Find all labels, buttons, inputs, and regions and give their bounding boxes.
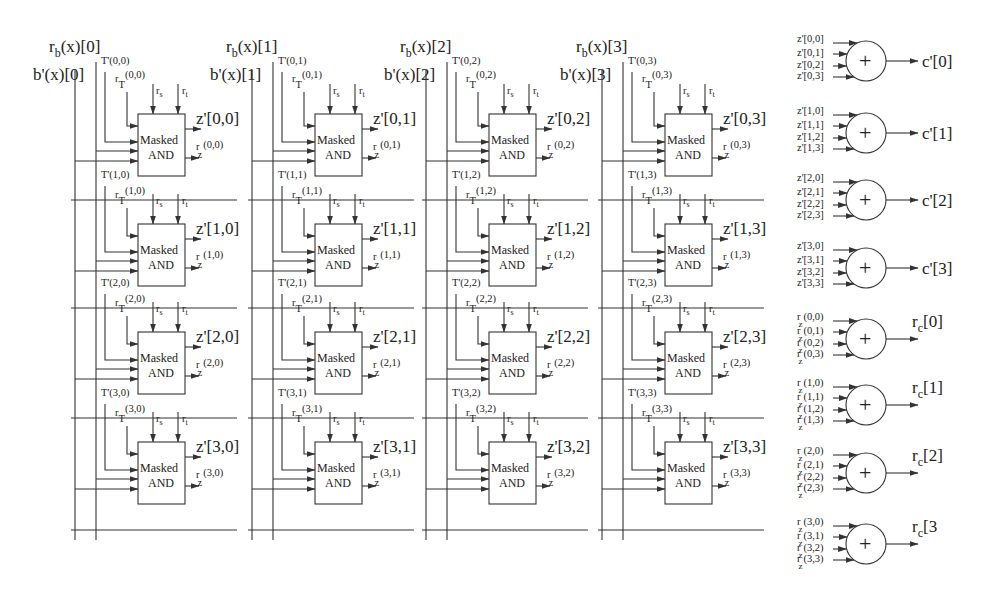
rt-label: rt: [709, 413, 716, 427]
masked-and-label: AND: [675, 148, 701, 162]
adder-output-label: c'[2]: [922, 191, 952, 210]
adder-input-label: z'[2,0]: [797, 172, 824, 183]
adder-input-label: z'[1,0]: [797, 105, 824, 116]
rT-input-wire: [304, 316, 315, 344]
masked-and-label: Masked: [140, 461, 178, 475]
z-output-label: z'[0,2]: [547, 109, 590, 128]
adder-input-label: z'[0,0]: [797, 33, 824, 44]
rt-label: rt: [533, 85, 540, 99]
z-output-label: z'[2,2]: [547, 327, 590, 346]
rT-input-wire: [478, 426, 489, 454]
rT-input-wire: [127, 426, 138, 454]
T-label: T'(0,3): [628, 55, 657, 67]
rt-label: rt: [182, 85, 189, 99]
masked-and-label: Masked: [317, 461, 355, 475]
z-output-label: z'[0,3]: [723, 109, 766, 128]
bprime-label: b'(x)[2]: [384, 65, 435, 84]
rT-input-wire: [654, 92, 665, 126]
rT-label: rT(2,1): [292, 293, 323, 314]
z-output-label: z'[0,1]: [373, 109, 416, 128]
rt-label: rt: [533, 303, 540, 317]
rT-input-wire: [654, 208, 665, 236]
rT-input-wire: [654, 316, 665, 344]
T-label: T'(2,3): [628, 277, 657, 289]
xor-plus-icon: +: [859, 326, 871, 351]
rT-input-wire: [127, 316, 138, 344]
adder-input-label: z'[0,2]: [797, 59, 824, 70]
z-output-label: z'[0,0]: [196, 109, 239, 128]
masked-and-cell-0-3: T'(0,3)rT(0,3)rsrtMaskedANDz'[0,3]rz(0,3…: [602, 55, 766, 176]
masked-and-label: Masked: [140, 243, 178, 257]
T-label: T'(3,1): [278, 387, 307, 399]
rb-label: rb(x)[3]: [576, 37, 627, 60]
rT-label: rT(1,2): [466, 185, 497, 206]
rt-label: rt: [359, 85, 366, 99]
rz-label: rz(0,2): [547, 139, 575, 160]
rs-label: rs: [156, 195, 163, 209]
rt-label: rt: [533, 195, 540, 209]
rb-label: rb(x)[2]: [400, 37, 451, 60]
r-adder-0: rz(0,0)rz(0,1)rz(0,2)rz(0,3)+rc[0]: [797, 311, 943, 366]
xor-plus-icon: +: [859, 392, 871, 417]
z-output-label: z'[1,1]: [373, 219, 416, 238]
rs-label: rs: [333, 195, 340, 209]
rs-label: rs: [507, 195, 514, 209]
z-output-label: z'[3,1]: [373, 437, 416, 456]
rz-label: rz(2,0): [196, 357, 224, 378]
rt-label: rt: [533, 413, 540, 427]
rz-label: rz(1,0): [196, 249, 224, 270]
rz-label: rz(0,3): [723, 139, 751, 160]
adder-input-label: z'[2,1]: [797, 186, 824, 197]
masked-and-label: Masked: [317, 133, 355, 147]
rt-label: rt: [182, 195, 189, 209]
xor-adder-trees: z'[0,0]z'[0,1]z'[0,2]z'[0,3]+c'[0]z'[1,0…: [797, 33, 952, 571]
rt-label: rt: [709, 195, 716, 209]
masked-and-label: AND: [499, 476, 525, 490]
masked-and-label: AND: [675, 476, 701, 490]
adder-output-label: c'[3]: [922, 259, 952, 278]
xor-plus-icon: +: [859, 187, 871, 212]
T-label: T'(0,0): [101, 55, 130, 67]
T-label: T'(1,1): [278, 169, 307, 181]
T-label: T'(3,2): [452, 387, 481, 399]
masked-and-label: Masked: [491, 351, 529, 365]
adder-input-label: z'[3,0]: [797, 240, 824, 251]
masked-multiplier-diagram: rb(x)[0]b'(x)[0]T'(0,0)rT(0,0)rsrtMasked…: [0, 0, 995, 605]
column-0: rb(x)[0]b'(x)[0]T'(0,0)rT(0,0)rsrtMasked…: [33, 37, 239, 540]
column-3: rb(x)[3]b'(x)[3]T'(0,3)rT(0,3)rsrtMasked…: [560, 37, 766, 540]
rT-input-wire: [654, 426, 665, 454]
rs-label: rs: [507, 303, 514, 317]
adder-output-label: rc[1]: [912, 378, 943, 401]
masked-and-label: AND: [499, 366, 525, 380]
rt-label: rt: [359, 413, 366, 427]
rz-label: rz(1,3): [723, 249, 751, 270]
xor-plus-icon: +: [859, 531, 871, 556]
rT-label: rT(0,2): [466, 69, 497, 90]
rs-label: rs: [507, 85, 514, 99]
bprime-label: b'(x)[0]: [33, 65, 84, 84]
adder-input-label: z'[1,3]: [797, 142, 824, 153]
xor-plus-icon: +: [859, 48, 871, 73]
rs-label: rs: [683, 195, 690, 209]
z-output-label: z'[2,3]: [723, 327, 766, 346]
adder-output-label: rc[2]: [912, 446, 943, 469]
masked-and-label: AND: [325, 366, 351, 380]
masked-and-label: AND: [148, 148, 174, 162]
masked-and-label: Masked: [667, 351, 705, 365]
rT-input-wire: [478, 208, 489, 236]
T-label: T'(0,2): [452, 55, 481, 67]
masked-and-label: AND: [148, 476, 174, 490]
c-adder-1: z'[1,0]z'[1,1]z'[1,2]z'[1,3]+c'[1]: [797, 105, 952, 153]
rT-input-wire: [127, 208, 138, 236]
T-label: T'(2,0): [101, 277, 130, 289]
rz-label: rz(2,1): [373, 357, 401, 378]
z-output-label: z'[1,0]: [196, 219, 239, 238]
rT-label: rT(1,3): [642, 185, 673, 206]
rT-input-wire: [304, 92, 315, 126]
rs-label: rs: [683, 85, 690, 99]
rz-label: rz(2,3): [723, 357, 751, 378]
bprime-label: b'(x)[3]: [560, 65, 611, 84]
masked-and-label: Masked: [667, 133, 705, 147]
T-label: T'(1,0): [101, 169, 130, 181]
rs-label: rs: [333, 303, 340, 317]
